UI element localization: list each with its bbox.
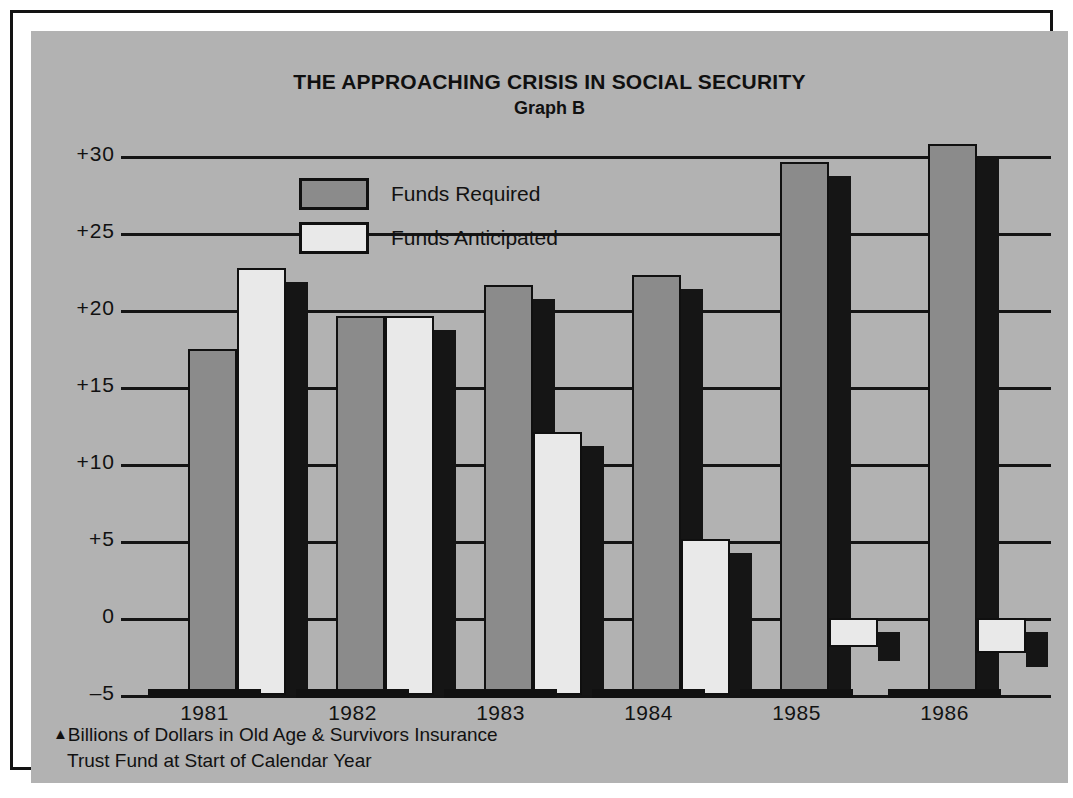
footnote-line-2: Trust Fund at Start of Calendar Year [53, 748, 753, 774]
y-axis-tick-0: 0 [31, 604, 115, 628]
x-axis-label-1985: 1985 [735, 701, 858, 725]
x-axis-tick-block-1981 [148, 689, 261, 698]
bar-shadow-funds-anticipated-1985 [878, 632, 900, 661]
bar-shadow-funds-anticipated-1981 [286, 282, 308, 695]
bar-funds-anticipated-1983 [533, 432, 582, 695]
chart-frame: THE APPROACHING CRISIS IN SOCIAL SECURIT… [10, 10, 1053, 770]
bar-shadow-funds-anticipated-1984 [730, 553, 752, 695]
bar-funds-anticipated-1986 [977, 618, 1026, 653]
chart-panel: THE APPROACHING CRISIS IN SOCIAL SECURIT… [31, 31, 1068, 783]
bar-funds-anticipated-1981 [237, 268, 286, 695]
bar-funds-anticipated-1985 [829, 618, 878, 647]
y-axis-tick-+15: +15 [31, 373, 115, 397]
y-axis-tick-+25: +25 [31, 219, 115, 243]
bar-shadow-funds-anticipated-1983 [582, 446, 604, 695]
legend-label-funds-required: Funds Required [391, 182, 540, 206]
y-axis-tick-+10: +10 [31, 450, 115, 474]
footnote-text-1: Billions of Dollars in Old Age & Survivo… [68, 724, 498, 745]
bar-funds-required-1982 [336, 316, 385, 695]
bar-funds-anticipated-1982 [385, 316, 434, 695]
x-axis-tick-block-1982 [296, 689, 409, 698]
y-axis-tick--5: –5 [31, 681, 115, 705]
page-root: THE APPROACHING CRISIS IN SOCIAL SECURIT… [0, 0, 1073, 798]
y-axis-tick-+20: +20 [31, 296, 115, 320]
footnote: ▲Billions of Dollars in Old Age & Surviv… [53, 721, 753, 774]
bar-funds-required-1981 [188, 349, 237, 696]
footnote-line-1: ▲Billions of Dollars in Old Age & Surviv… [53, 721, 753, 748]
plot-area: +30+25+20+15+10+50–519811982198319841985… [31, 31, 1068, 783]
bar-funds-anticipated-1984 [681, 539, 730, 695]
legend-item-funds-anticipated: Funds Anticipated [299, 219, 639, 257]
y-axis-tick-+30: +30 [31, 142, 115, 166]
triangle-icon: ▲ [53, 725, 68, 742]
bar-shadow-funds-required-1986 [977, 158, 999, 695]
y-axis-tick-+5: +5 [31, 527, 115, 551]
bar-funds-required-1983 [484, 285, 533, 695]
bar-shadow-funds-anticipated-1986 [1026, 632, 1048, 667]
bar-funds-required-1985 [780, 162, 829, 695]
bar-funds-required-1986 [928, 144, 977, 695]
legend-label-funds-anticipated: Funds Anticipated [391, 226, 558, 250]
legend-item-funds-required: Funds Required [299, 175, 639, 213]
x-axis-tick-block-1983 [444, 689, 557, 698]
legend-swatch-funds-anticipated [299, 222, 369, 254]
x-axis-tick-block-1985 [740, 689, 853, 698]
gridline-+30 [121, 156, 1051, 159]
bar-shadow-funds-anticipated-1982 [434, 330, 456, 695]
legend-swatch-funds-required [299, 178, 369, 210]
bar-funds-required-1984 [632, 275, 681, 695]
chart-legend: Funds Required Funds Anticipated [299, 175, 639, 263]
x-axis-tick-block-1984 [592, 689, 705, 698]
x-axis-tick-block-1986 [888, 689, 1001, 698]
x-axis-label-1986: 1986 [883, 701, 1006, 725]
